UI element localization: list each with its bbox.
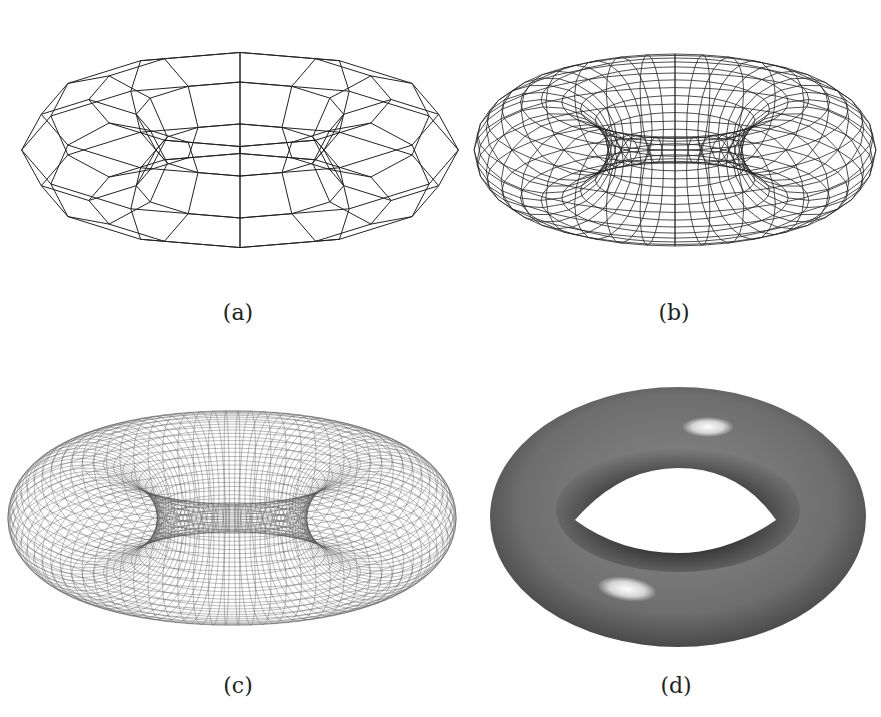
caption-c: (c) (208, 673, 268, 698)
wireframe-lines (474, 54, 876, 246)
panel-c (0, 360, 470, 670)
coarse-wireframe-torus (0, 0, 460, 300)
panel-b (470, 0, 881, 300)
fine-wireframe-torus (0, 360, 470, 670)
panel-d (470, 360, 881, 670)
caption-d: (d) (646, 673, 706, 698)
wireframe-lines (22, 52, 459, 247)
panel-a (0, 0, 460, 300)
medium-wireframe-torus (470, 0, 881, 300)
caption-b: (b) (644, 300, 704, 325)
caption-a: (a) (208, 300, 268, 325)
highlight-top (682, 417, 734, 437)
shaded-torus (470, 360, 881, 670)
wireframe-lines (8, 411, 457, 625)
